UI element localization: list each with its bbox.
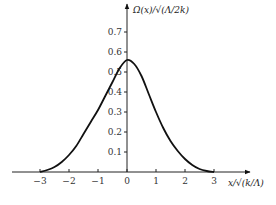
y-tick-label: 0.6 (108, 47, 123, 57)
x-tick-label: −1 (91, 176, 104, 186)
x-tick-label: −2 (62, 176, 75, 186)
y-tick-label: 0.7 (108, 27, 123, 37)
x-tick-label: −3 (33, 176, 47, 186)
y-tick-label: 0.1 (108, 147, 122, 157)
x-tick-label: 3 (211, 176, 217, 186)
x-axis-label: x/√(k/Λ) (228, 178, 264, 188)
y-tick-label: 0.2 (108, 127, 122, 137)
y-tick-label: 0.3 (108, 107, 123, 117)
x-tick-label: 2 (182, 176, 188, 186)
y-axis-label: Ω(x)/√(Λ/2k) (132, 5, 190, 15)
x-tick-label: 1 (153, 176, 159, 186)
x-tick-label: 0 (124, 176, 130, 186)
chart: −3−2−10123 0.10.20.30.40.50.60.7 Ω(x)/√(… (0, 0, 276, 205)
